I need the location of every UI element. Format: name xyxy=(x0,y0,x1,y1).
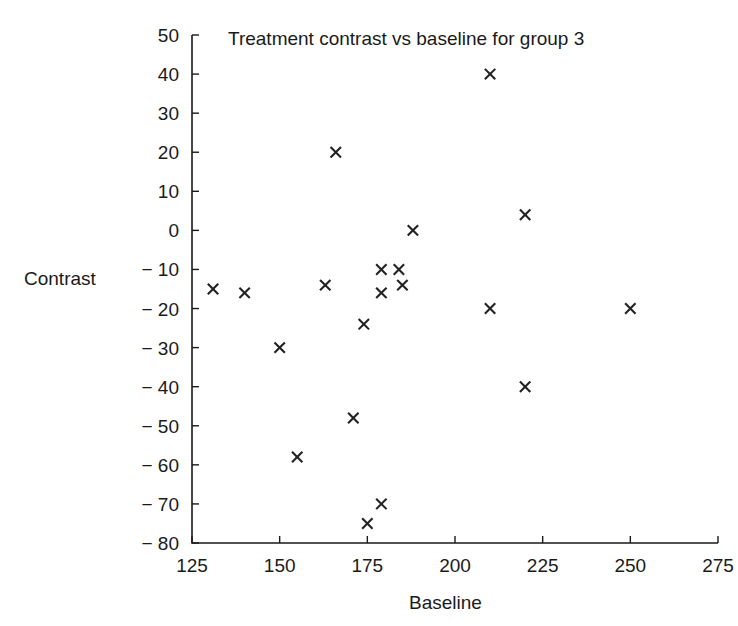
data-point xyxy=(348,413,358,423)
data-point xyxy=(376,499,386,509)
x-tick-label: 275 xyxy=(702,555,734,576)
x-tick-label: 150 xyxy=(264,555,296,576)
data-point xyxy=(320,280,330,290)
data-point xyxy=(394,264,404,274)
data-point xyxy=(376,264,386,274)
y-tick-label: 20 xyxy=(158,142,179,163)
scatter-plot-figure: 50403020100− 10− 20− 30− 40− 50− 60− 70−… xyxy=(0,0,738,626)
data-point xyxy=(485,303,495,313)
y-tick-label: 40 xyxy=(158,64,179,85)
y-tick-label: 50 xyxy=(158,25,179,46)
data-point xyxy=(331,147,341,157)
data-point xyxy=(359,319,369,329)
x-axis-tick-labels: 125150175200225250275 xyxy=(176,555,734,576)
x-axis-label: Baseline xyxy=(409,592,482,613)
data-point xyxy=(408,225,418,235)
x-tick-label: 175 xyxy=(351,555,383,576)
data-point xyxy=(397,280,407,290)
x-tick-label: 225 xyxy=(527,555,559,576)
data-point xyxy=(485,69,495,79)
y-tick-label: − 20 xyxy=(141,299,179,320)
data-point-markers xyxy=(208,69,636,529)
x-tick-label: 200 xyxy=(439,555,471,576)
x-axis-ticks xyxy=(192,536,718,543)
data-point xyxy=(362,518,372,528)
chart-title: Treatment contrast vs baseline for group… xyxy=(228,28,584,49)
y-tick-label: 30 xyxy=(158,103,179,124)
y-axis-tick-labels: 50403020100− 10− 20− 30− 40− 50− 60− 70−… xyxy=(141,25,179,554)
y-tick-label: − 10 xyxy=(141,259,179,280)
data-point xyxy=(520,210,530,220)
axis-spine-line xyxy=(192,35,718,543)
data-point xyxy=(292,452,302,462)
y-axis-label: Contrast xyxy=(24,268,97,289)
data-point xyxy=(274,342,284,352)
data-point xyxy=(208,284,218,294)
data-point xyxy=(625,303,635,313)
y-tick-label: 10 xyxy=(158,181,179,202)
plot-canvas: 50403020100− 10− 20− 30− 40− 50− 60− 70−… xyxy=(0,0,738,626)
data-point xyxy=(520,381,530,391)
x-tick-label: 250 xyxy=(614,555,646,576)
y-tick-label: − 70 xyxy=(141,494,179,515)
y-axis-ticks xyxy=(192,35,199,543)
data-point xyxy=(376,288,386,298)
y-tick-label: − 80 xyxy=(141,533,179,554)
y-tick-label: − 30 xyxy=(141,338,179,359)
y-tick-label: − 60 xyxy=(141,455,179,476)
y-tick-label: 0 xyxy=(168,220,179,241)
y-tick-label: − 40 xyxy=(141,377,179,398)
axis-spines xyxy=(192,35,718,543)
x-tick-label: 125 xyxy=(176,555,208,576)
y-tick-label: − 50 xyxy=(141,416,179,437)
data-point xyxy=(239,288,249,298)
